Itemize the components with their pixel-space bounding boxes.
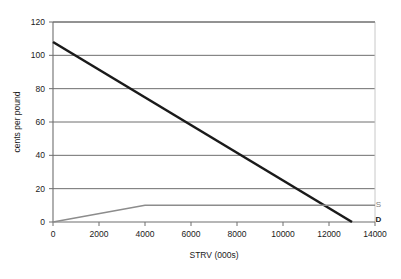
y-axis-tick-label: 0 xyxy=(40,217,45,227)
x-axis-tick-label: 12000 xyxy=(317,229,341,239)
x-axis-ticks xyxy=(53,222,375,226)
chart-container: 02000400060008000100001200014000 0204060… xyxy=(0,0,401,279)
y-axis-tick-labels: 020406080100120 xyxy=(31,17,45,227)
series-label-d: D xyxy=(376,215,382,224)
supply-demand-chart: 02000400060008000100001200014000 0204060… xyxy=(0,0,401,279)
y-axis-tick-label: 60 xyxy=(36,117,46,127)
x-axis-tick-label: 4000 xyxy=(136,229,155,239)
y-axis-tick-label: 20 xyxy=(36,184,46,194)
x-axis-tick-labels: 02000400060008000100001200014000 xyxy=(51,229,387,239)
y-axis-tick-label: 120 xyxy=(31,17,45,27)
series-label-s: S xyxy=(376,200,381,209)
y-axis-tick-label: 80 xyxy=(36,84,46,94)
y-axis-title: cents per pound xyxy=(12,91,22,152)
x-axis-title: STRV (000s) xyxy=(190,250,239,260)
x-axis-tick-label: 10000 xyxy=(271,229,295,239)
y-axis-tick-label: 40 xyxy=(36,150,46,160)
x-axis-tick-label: 2000 xyxy=(90,229,109,239)
x-axis-tick-label: 6000 xyxy=(182,229,201,239)
y-axis-tick-label: 100 xyxy=(31,50,45,60)
x-axis-tick-label: 0 xyxy=(51,229,56,239)
series-annotations: SD xyxy=(376,200,382,224)
y-axis-ticks xyxy=(49,22,53,222)
x-axis-tick-label: 8000 xyxy=(228,229,247,239)
x-axis-tick-label: 14000 xyxy=(363,229,387,239)
